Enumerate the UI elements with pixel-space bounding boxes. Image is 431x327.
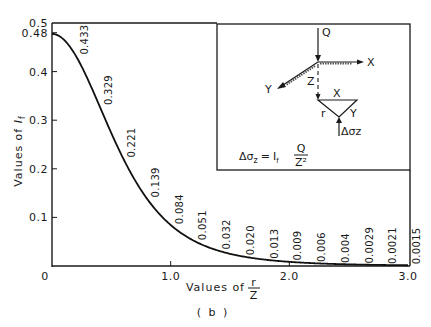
svg-text:r: r	[251, 276, 257, 289]
point-value-label: 0.0021	[387, 227, 398, 264]
y-tick-label: 0.3	[29, 114, 48, 127]
svg-text:Values of: Values of	[186, 281, 245, 294]
point-value-label: 0.006	[316, 232, 327, 262]
svg-text:0.433: 0.433	[79, 24, 90, 54]
point-value-label: 0.009	[292, 230, 303, 260]
influence-factor-chart: 0.10.20.30.40.480.5 01.02.03.0 0.4330.32…	[0, 0, 431, 327]
figure-caption: ( b )	[197, 306, 230, 319]
triangle-x-label: X	[333, 87, 341, 100]
y-axis-title: Values of If	[12, 115, 27, 187]
x-axis-label: X	[367, 56, 375, 69]
point-value-label: 0.020	[245, 225, 256, 255]
svg-text:0.051: 0.051	[197, 210, 208, 240]
x-axis-title: Values of r Z	[186, 276, 260, 302]
svg-text:0.020: 0.020	[245, 225, 256, 255]
svg-text:0.006: 0.006	[316, 232, 327, 262]
point-value-label: 0.329	[103, 75, 114, 105]
svg-text:Z: Z	[250, 289, 259, 302]
x-tick-label: 1.0	[161, 270, 180, 283]
svg-text:0.013: 0.013	[269, 229, 280, 259]
svg-text:0.004: 0.004	[340, 233, 351, 263]
point-value-label: 0.0015	[411, 228, 422, 265]
svg-text:Z²: Z²	[295, 156, 307, 169]
point-value-label: 0.0029	[364, 227, 375, 264]
svg-text:0.009: 0.009	[292, 230, 303, 260]
svg-text:0.0021: 0.0021	[387, 227, 398, 264]
x-tick-label: 3.0	[399, 270, 418, 283]
radius-label: r	[321, 107, 326, 120]
point-value-label: 0.051	[197, 210, 208, 240]
y-tick-label: 0.2	[29, 163, 48, 176]
load-label: Q	[322, 26, 331, 39]
svg-text:Values of If: Values of If	[12, 115, 27, 187]
svg-text:0.139: 0.139	[150, 167, 161, 197]
point-value-label: 0.032	[221, 219, 232, 249]
svg-text:0.032: 0.032	[221, 219, 232, 249]
point-value-label: 0.013	[269, 229, 280, 259]
y-tick-label: 0.5	[29, 17, 48, 30]
svg-text:0.0015: 0.0015	[411, 228, 422, 265]
depth-label: Z	[307, 75, 315, 88]
svg-text:0.329: 0.329	[103, 75, 114, 105]
point-value-label: 0.433	[79, 24, 90, 54]
svg-text:0.221: 0.221	[126, 127, 137, 157]
triangle-y-label: Y	[349, 107, 357, 120]
inset-diagram: Q X Y Z X r Y Δσz Δσz=If Q Z²	[217, 24, 410, 170]
y-axis-label: Y	[264, 83, 272, 96]
x-tick-label: 0	[41, 270, 49, 283]
y-tick-label: 0.4	[29, 66, 48, 79]
svg-text:0.084: 0.084	[174, 194, 185, 224]
point-value-label: 0.139	[150, 167, 161, 197]
y-tick-label: 0.1	[29, 211, 48, 224]
point-value-label: 0.084	[174, 194, 185, 224]
svg-text:0.0029: 0.0029	[364, 227, 375, 264]
point-value-label: 0.221	[126, 127, 137, 157]
stress-label: Δσz	[341, 125, 361, 138]
inset-frame	[217, 24, 410, 170]
svg-text:Q: Q	[297, 142, 306, 155]
x-tick-label: 2.0	[280, 270, 299, 283]
point-value-label: 0.004	[340, 233, 351, 263]
